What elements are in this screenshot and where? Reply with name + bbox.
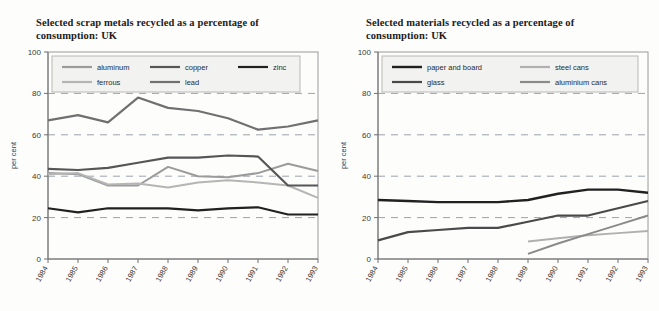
ytick-label-0: 0 — [367, 255, 372, 264]
chart-title-line1: Selected scrap metals recycled as a perc… — [36, 17, 259, 28]
legend-label-aluminium-cans: aluminium cans — [555, 78, 607, 87]
ytick-label-60: 60 — [32, 131, 41, 140]
plot-area-materials: 020406080100per cent19841985198619871988… — [330, 44, 659, 309]
xtick-label-1988: 1988 — [484, 265, 500, 284]
xtick-label-1991: 1991 — [244, 265, 260, 284]
y-axis-label: per cent — [339, 141, 348, 169]
xtick-label-1987: 1987 — [454, 265, 470, 284]
ytick-label-100: 100 — [28, 48, 42, 57]
legend-label-zinc: zinc — [273, 63, 287, 72]
legend-label-glass: glass — [427, 78, 445, 87]
chart-svg-materials: 020406080100per cent19841985198619871988… — [330, 44, 659, 309]
xtick-label-1984: 1984 — [364, 265, 380, 284]
plot-area-scrap-metals: 020406080100per cent19841985198619871988… — [0, 44, 329, 309]
xtick-label-1985: 1985 — [64, 265, 80, 284]
xtick-label-1990: 1990 — [214, 265, 230, 284]
legend-label-aluminum: aluminum — [97, 63, 130, 72]
ytick-label-40: 40 — [32, 172, 41, 181]
xtick-label-1992: 1992 — [274, 265, 290, 284]
ytick-label-80: 80 — [32, 89, 41, 98]
xtick-label-1987: 1987 — [124, 265, 140, 284]
chart-title-line2: consumption: UK — [36, 30, 117, 41]
xtick-label-1990: 1990 — [544, 265, 560, 284]
legend-label-paper-and-board: paper and board — [427, 63, 482, 72]
xtick-label-1985: 1985 — [394, 265, 410, 284]
xtick-label-1989: 1989 — [184, 265, 200, 284]
chart-title-scrap-metals: Selected scrap metals recycled as a perc… — [36, 16, 311, 42]
legend-label-ferrous: ferrous — [97, 78, 121, 87]
y-axis-label: per cent — [9, 141, 18, 169]
xtick-label-1988: 1988 — [154, 265, 170, 284]
figure-page: Selected scrap metals recycled as a perc… — [0, 0, 659, 311]
ytick-label-20: 20 — [362, 214, 371, 223]
ytick-label-80: 80 — [362, 89, 371, 98]
legend-label-steel-cans: steel cans — [555, 63, 589, 72]
ytick-label-0: 0 — [37, 255, 42, 264]
ytick-label-100: 100 — [358, 48, 372, 57]
xtick-label-1986: 1986 — [94, 265, 110, 284]
xtick-label-1993: 1993 — [634, 265, 650, 284]
xtick-label-1984: 1984 — [34, 265, 50, 284]
chart-svg-scrap-metals: 020406080100per cent19841985198619871988… — [0, 44, 329, 309]
ytick-label-60: 60 — [362, 131, 371, 140]
legend-label-copper: copper — [185, 63, 208, 72]
chart-title-line2: consumption: UK — [366, 30, 447, 41]
ytick-label-40: 40 — [362, 172, 371, 181]
xtick-label-1992: 1992 — [604, 265, 620, 284]
ytick-label-20: 20 — [32, 214, 41, 223]
chart-title-line1: Selected materials recycled as a percent… — [366, 17, 574, 28]
xtick-label-1993: 1993 — [304, 265, 320, 284]
xtick-label-1991: 1991 — [574, 265, 590, 284]
chart-panel-scrap-metals: Selected scrap metals recycled as a perc… — [0, 0, 329, 311]
xtick-label-1986: 1986 — [424, 265, 440, 284]
chart-panel-materials: Selected materials recycled as a percent… — [330, 0, 659, 311]
xtick-label-1989: 1989 — [514, 265, 530, 284]
legend-label-lead: lead — [185, 78, 199, 87]
legend-box-scrap-metals — [52, 56, 300, 92]
chart-title-materials: Selected materials recycled as a percent… — [366, 16, 641, 42]
